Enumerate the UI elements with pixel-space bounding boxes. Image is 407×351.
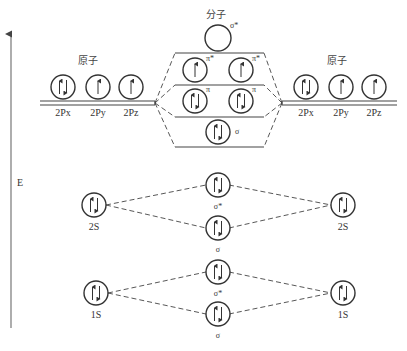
right-2s-orbital: 2S: [331, 193, 355, 232]
left-atom-label: 原子: [78, 55, 98, 66]
left-2py-label: 2Py: [90, 107, 106, 118]
right-2pz-orbital: 2Pz: [362, 75, 386, 118]
mo-sigma-star-2p-label: σ*: [230, 21, 238, 30]
mo-sigma-star-2p: σ*: [205, 21, 238, 51]
left-2px-orbital: 2Px: [51, 75, 75, 118]
mo-sigma-star-1s: σ*: [206, 260, 230, 298]
left-2s-orbital: 2S: [82, 193, 106, 232]
mo-pi-2p-2-label: π: [252, 85, 256, 94]
left-2py-orbital: 2Py: [86, 75, 110, 118]
right-2pz-label: 2Pz: [367, 107, 383, 118]
mo-sigma-2p-label: σ: [235, 127, 240, 136]
mo-pi-star-2p-2-label: π*: [252, 54, 260, 63]
right-2px-label: 2Px: [298, 107, 314, 118]
mo-sigma-2s: σ: [206, 216, 230, 254]
right-2s-label: 2S: [338, 221, 349, 232]
mo-sigma-2p: σ: [206, 120, 240, 144]
right-2py-orbital: 2Py: [329, 75, 353, 118]
left-2px-label: 2Px: [55, 107, 71, 118]
right-1s-orbital: 1S: [331, 281, 355, 320]
mo-pi-2p-1: π: [183, 85, 210, 113]
mo-sigma-2s-label: σ: [216, 245, 221, 254]
energy-axis: E: [11, 34, 23, 328]
mo-sigma-1s: σ: [206, 302, 230, 340]
mo-pi-2p-2: π: [229, 85, 256, 113]
left-2p-level: [40, 101, 155, 105]
energy-axis-label: E: [17, 177, 23, 188]
mo-sigma-1s-label: σ: [216, 331, 221, 340]
mo-sigma-star-2s: σ*: [206, 173, 230, 211]
mo-sigma-star-1s-label: σ*: [214, 289, 222, 298]
left-2pz-orbital: 2Pz: [119, 75, 143, 118]
mo-2p-connectors-left: [155, 53, 175, 147]
right-2px-orbital: 2Px: [294, 75, 318, 118]
right-atom-label: 原子: [327, 55, 347, 66]
mo-pi-star-2p-1-label: π*: [206, 54, 214, 63]
mo-2p-connectors-right: [264, 53, 282, 147]
right-2p-level: [282, 101, 397, 105]
left-1s-label: 1S: [91, 309, 102, 320]
molecule-label: 分子: [206, 9, 226, 20]
mo-pi-star-2p-1: π*: [183, 54, 214, 82]
mo-pi-star-2p-2: π*: [229, 54, 260, 82]
mo-pi-2p-1-label: π: [206, 85, 210, 94]
right-1s-label: 1S: [338, 309, 349, 320]
left-2s-label: 2S: [89, 221, 100, 232]
mo-sigma-star-2s-label: σ*: [214, 202, 222, 211]
left-2pz-label: 2Pz: [124, 107, 140, 118]
mo-diagram: E 原子 原子 分子 2Px 2Py 2Pz 2Px: [0, 0, 407, 351]
left-1s-orbital: 1S: [84, 281, 108, 320]
right-2py-label: 2Py: [333, 107, 349, 118]
